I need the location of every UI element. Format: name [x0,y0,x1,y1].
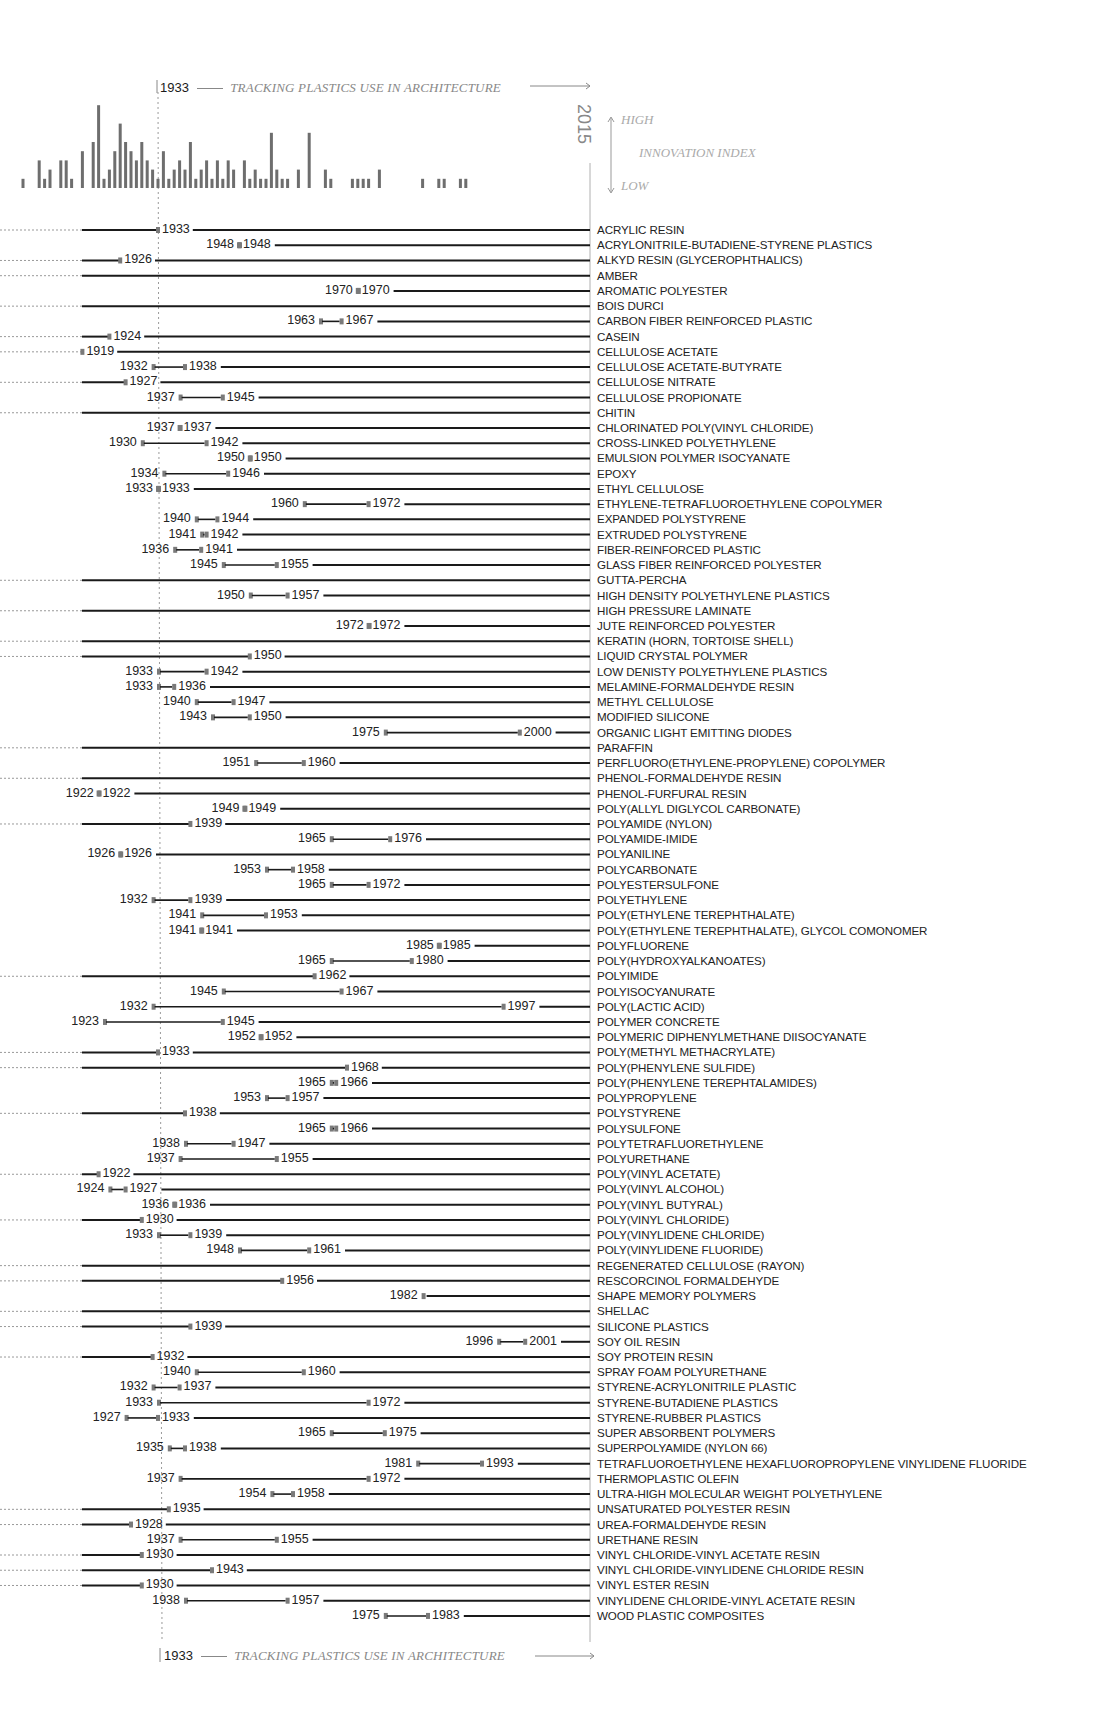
innovation-bar [443,179,446,188]
end-year-label: 1939 [194,1319,222,1333]
end-marker [205,440,209,446]
end-year-label: 1952 [265,1029,293,1043]
material-name: MODIFIED SILICONE [597,710,709,723]
start-year-label: 1933 [125,664,153,678]
material-name: THERMOPLASTIC OLEFIN [597,1472,739,1485]
end-year-label: 1985 [443,938,471,952]
end-marker [367,501,371,507]
footer-title: TRACKING PLASTICS USE IN ARCHITECTURE [234,1648,505,1663]
start-year-label: 1945 [190,557,218,571]
end-marker [291,867,295,873]
end-year-label: 1947 [238,694,266,708]
material-name: URETHANE RESIN [597,1533,698,1546]
end-marker [188,1232,192,1238]
material-name: POLY(PHENYLENE TEREPHTALAMIDES) [597,1076,817,1089]
innovation-bar [178,160,181,188]
material-name: VINYL CHLORIDE-VINYL ACETATE RESIN [597,1548,820,1561]
material-name: POLYMER CONCRETE [597,1015,720,1028]
start-year-label: 1965 [298,953,326,967]
end-year-label: 1962 [319,968,347,982]
end-marker [97,1171,101,1177]
end-year-label: 1960 [308,1364,336,1378]
end-marker [275,1156,279,1162]
material-name: POLYMERIC DIPHENYLMETHANE DIISOCYANATE [597,1030,866,1043]
end-marker [383,1430,387,1436]
end-marker [367,1476,371,1482]
material-name: POLYAMIDE-IMIDE [597,832,698,845]
header-dash [197,88,223,89]
footer-dash [201,1656,227,1657]
end-year-label: 1972 [373,1471,401,1485]
start-year-label: 1965 [298,1425,326,1439]
end-marker [156,486,160,492]
end-marker [334,1080,338,1086]
end-year-label: 1943 [216,1562,244,1576]
end-marker [140,1552,144,1558]
start-year-label: 1924 [77,1181,105,1195]
end-marker [215,516,219,522]
innovation-bar [189,142,192,188]
end-marker [140,1217,144,1223]
start-year-label: 1952 [228,1029,256,1043]
end-year-label: 1980 [416,953,444,967]
end-year-label: 1926 [124,252,152,266]
end-year-label: 1938 [189,1440,217,1454]
material-name: SOY OIL RESIN [597,1335,680,1348]
start-year-label: 1960 [271,496,299,510]
end-marker [140,1582,144,1588]
material-name: STYRENE-BUTADIENE PLASTICS [597,1396,778,1409]
end-marker [172,1202,176,1208]
end-year-label: 1939 [194,892,222,906]
material-name: POLYISOCYANURATE [597,985,715,998]
innovation-bar [464,179,467,188]
start-year-label: 1950 [217,450,245,464]
material-name: ULTRA-HIGH MOLECULAR WEIGHT POLYETHYLENE [597,1487,882,1500]
end-year-label: 1955 [281,557,309,571]
material-name: LOW DENISTY POLYETHYLENE PLASTICS [597,665,827,678]
material-name: PERFLUORO(ETHYLENE-PROPYLENE) COPOLYMER [597,756,885,769]
material-name: POLY(VINYL ACETATE) [597,1167,720,1180]
end-marker [248,714,252,720]
start-year-label: 1950 [217,588,245,602]
material-name: SHAPE MEMORY POLYMERS [597,1289,756,1302]
end-marker [107,334,111,340]
end-year-label: 1950 [254,450,282,464]
material-name: CELLULOSE PROPIONATE [597,391,742,404]
end-year-label: 1937 [184,1379,212,1393]
end-marker [356,288,360,294]
start-year-label: 1922 [66,786,94,800]
start-year-label: 1927 [93,1410,121,1424]
end-marker [156,1049,160,1055]
innovation-bar [211,179,214,188]
start-year-label: 1930 [109,435,137,449]
start-year-label: 1934 [131,466,159,480]
end-year-label: 1935 [173,1501,201,1515]
end-marker [437,943,441,949]
end-year-label: 1970 [362,283,390,297]
end-marker [286,1095,290,1101]
end-year-label: 1945 [227,390,255,404]
end-year-label: 1949 [248,801,276,815]
start-year-label: 1932 [120,999,148,1013]
material-name: VINYL ESTER RESIN [597,1578,709,1591]
start-year-label: 1972 [336,618,364,632]
end-marker [286,593,290,599]
material-name: POLY(ETHYLENE TEREPHTHALATE), GLYCOL COM… [597,924,927,937]
material-name: EXTRUDED POLYSTYRENE [597,528,747,541]
header-title: TRACKING PLASTICS USE IN ARCHITECTURE [230,80,501,95]
start-year-label: 1940 [163,1364,191,1378]
innovation-bar [437,179,440,188]
material-name: POLY(HYDROXYALKANOATES) [597,954,765,967]
innovation-bar [308,133,311,188]
end-marker [124,379,128,385]
end-year-label: 1938 [189,1105,217,1119]
material-name: HIGH PRESSURE LAMINATE [597,604,751,617]
innovation-bar [243,160,246,188]
start-year-label: 1940 [163,694,191,708]
end-year-label: 1957 [292,1593,320,1607]
material-name: PHENOL-FURFURAL RESIN [597,787,747,800]
material-name: POLY(VINYL BUTYRAL) [597,1198,723,1211]
innovation-bar [362,179,365,188]
material-name: POLYFLUORENE [597,939,689,952]
end-year-label: 1955 [281,1532,309,1546]
